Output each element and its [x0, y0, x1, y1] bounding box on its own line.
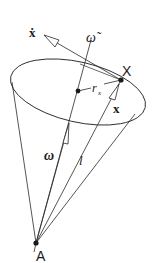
- omega-line: [36, 127, 68, 243]
- r-x-line-2: [104, 80, 121, 84]
- point-center: [76, 89, 81, 94]
- cone-diagram: ẋ ω̃ X r x x ω l A: [0, 0, 158, 263]
- label-l: l: [79, 153, 83, 168]
- cone-right-edge: [36, 114, 135, 243]
- label-x-dot: ẋ: [29, 25, 36, 40]
- label-r: r: [92, 81, 97, 95]
- label-point-X: X: [122, 63, 132, 79]
- label-x-vector: x: [113, 101, 120, 116]
- x-dot-arrowhead: [44, 35, 59, 47]
- label-omega-tilde: ω̃: [86, 30, 102, 45]
- label-r-sub: x: [97, 89, 102, 97]
- label-omega: ω: [44, 148, 54, 163]
- tangent-line: [80, 64, 121, 80]
- point-A: [33, 240, 38, 245]
- label-point-A: A: [36, 248, 46, 263]
- x-vector-arrowhead: [109, 84, 119, 100]
- omega-arrowhead: [63, 123, 69, 144]
